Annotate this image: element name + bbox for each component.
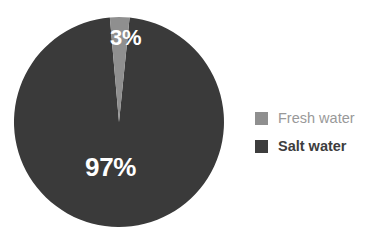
pie-chart-figure: 3% 97% Fresh water Salt water (0, 0, 375, 236)
pie-slice-label-salt-water: 97% (85, 152, 136, 183)
legend-swatch-salt-water (255, 140, 268, 153)
legend-label-fresh-water: Fresh water (278, 111, 355, 126)
legend-swatch-fresh-water (255, 112, 268, 125)
legend-item-fresh-water[interactable]: Fresh water (255, 104, 375, 132)
pie-plot-area: 3% 97% (0, 0, 240, 236)
chart-legend: Fresh water Salt water (255, 104, 375, 160)
pie-slice-label-fresh-water: 3% (110, 25, 141, 51)
legend-item-salt-water[interactable]: Salt water (255, 132, 375, 160)
legend-label-salt-water: Salt water (278, 139, 347, 154)
